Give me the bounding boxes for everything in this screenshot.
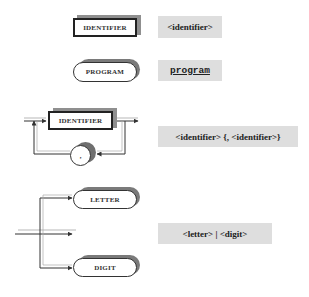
identifier-loop-rect-node: IDENTIFIER bbox=[48, 111, 113, 130]
connector-lines bbox=[0, 0, 309, 297]
ebnf-program-label: program bbox=[158, 60, 222, 81]
comma-circle-node: , bbox=[70, 145, 91, 166]
digit-pill-node: DIGIT bbox=[73, 258, 137, 277]
letter-pill-node: LETTER bbox=[73, 190, 137, 209]
ebnf-alternation-label: <letter> | <digit> bbox=[158, 223, 272, 244]
ebnf-identifier-label: <identifier> bbox=[158, 16, 222, 38]
ebnf-repetition-label: <identifier> {, <identifier>} bbox=[158, 126, 298, 147]
program-pill-node: PROGRAM bbox=[73, 62, 137, 82]
identifier-rect-node: IDENTIFIER bbox=[73, 18, 137, 37]
